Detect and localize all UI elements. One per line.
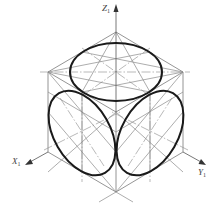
y-axis-label: Y1 bbox=[198, 167, 206, 178]
construction-line bbox=[82, 72, 183, 92]
center-lines bbox=[40, 48, 190, 182]
y-axis-arrow-icon bbox=[199, 159, 207, 165]
x-axis-label: X1 bbox=[11, 156, 21, 167]
x-axis-arrow-icon bbox=[25, 159, 33, 165]
x-axis-line bbox=[30, 152, 48, 162]
construction-line bbox=[82, 52, 183, 72]
construction-line bbox=[99, 192, 116, 202]
isometric-cube-diagram: Z1 X1 Y1 bbox=[0, 0, 216, 207]
construction-line bbox=[48, 52, 150, 72]
construction-line bbox=[116, 112, 183, 172]
y-axis-line bbox=[183, 152, 201, 162]
z-axis-label: Z1 bbox=[102, 3, 110, 14]
construction-lines bbox=[48, 32, 183, 202]
construction-line bbox=[116, 92, 183, 132]
construction-line bbox=[116, 192, 133, 202]
axis-labels: Z1 X1 Y1 bbox=[11, 3, 206, 178]
construction-line bbox=[116, 112, 183, 192]
cube-inner-top-edges bbox=[48, 72, 183, 112]
z-axis-arrow-icon bbox=[114, 4, 119, 12]
construction-line bbox=[48, 72, 150, 92]
